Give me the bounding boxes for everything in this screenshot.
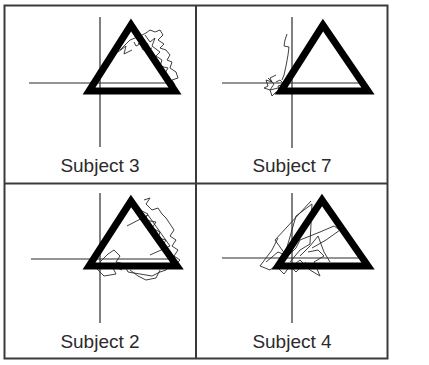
panel-subject-3: Subject 3 bbox=[29, 17, 178, 176]
subject-trajectory-figure: Subject 3 Subject 7 Subject 2 bbox=[0, 0, 429, 365]
panel-label: Subject 3 bbox=[60, 155, 139, 176]
axes bbox=[222, 193, 360, 323]
reference-triangle bbox=[89, 201, 177, 266]
panel-subject-4: Subject 4 bbox=[222, 193, 368, 352]
panel-subject-2: Subject 2 bbox=[31, 193, 180, 352]
panel-subject-7: Subject 7 bbox=[222, 17, 368, 176]
axes bbox=[31, 193, 170, 323]
panel-label: Subject 2 bbox=[60, 331, 139, 352]
axes bbox=[222, 17, 360, 148]
grid-frame bbox=[4, 5, 388, 359]
panel-label: Subject 4 bbox=[252, 331, 332, 352]
panel-label: Subject 7 bbox=[252, 155, 331, 176]
reference-triangle bbox=[281, 25, 368, 91]
reference-triangle bbox=[89, 25, 175, 91]
